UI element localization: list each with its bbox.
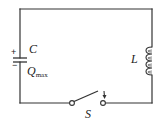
inductor-label: L xyxy=(131,53,138,65)
switch-arrow-head-icon xyxy=(103,95,107,99)
charge-label-main: Q xyxy=(27,64,36,78)
switch-lever[interactable] xyxy=(74,91,98,102)
capacitor-positive-sign: + xyxy=(11,48,16,57)
lc-circuit-diagram: + − C Qmax L S xyxy=(0,0,164,123)
charge-label: Qmax xyxy=(27,65,48,79)
circuit-drawing xyxy=(0,0,164,123)
capacitor-negative-sign: − xyxy=(12,61,17,70)
switch-terminal-right xyxy=(101,101,106,106)
capacitor-label: C xyxy=(29,43,37,55)
switch-symbol[interactable] xyxy=(70,91,107,105)
charge-label-sub: max xyxy=(36,71,48,79)
inductor-coil-icon xyxy=(146,47,152,75)
switch-terminal-left xyxy=(70,101,75,106)
switch-label: S xyxy=(85,108,91,120)
